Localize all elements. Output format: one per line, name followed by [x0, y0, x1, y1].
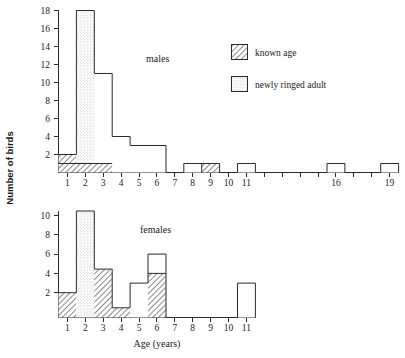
- panel-females: 10 8 6 4 2: [41, 211, 256, 351]
- males-ytick-2: 2: [45, 150, 50, 160]
- females-ytick-10: 10: [41, 211, 51, 221]
- figure-root: Number of birds 18 16 14 12 10: [0, 0, 405, 358]
- males-bar-9-known-age: [202, 164, 220, 173]
- females-ytick-8: 8: [45, 230, 50, 240]
- males-xtick-16: 16: [331, 178, 341, 188]
- males-xtick-5: 5: [137, 178, 142, 188]
- females-bar-11-unshaded: [238, 283, 256, 317]
- males-bar-2-known-age: [76, 164, 94, 173]
- males-xtick-4: 4: [119, 178, 124, 188]
- y-axis-label-text: Number of birds: [4, 131, 15, 204]
- females-xtick-6: 6: [155, 323, 160, 333]
- females-xtick-10: 10: [224, 323, 234, 333]
- females-bar-4-known-age: [112, 308, 130, 318]
- males-y-ticks: 18 16 14 12 10 8 6 4 2: [41, 6, 59, 160]
- males-xtick-9: 9: [208, 178, 213, 188]
- males-bar-6-unshaded: [148, 146, 166, 173]
- males-xtick-1: 1: [65, 178, 70, 188]
- males-bar-3-unshaded: [94, 74, 112, 164]
- males-x-ticks: 1 2 3 4 5 6 7 8 9 10 11 16 19: [65, 173, 395, 189]
- males-xtick-10: 10: [224, 178, 234, 188]
- females-ytick-2: 2: [45, 288, 50, 298]
- females-ytick-6: 6: [45, 249, 50, 259]
- males-bar-16-unshaded: [327, 164, 345, 173]
- females-xtick-2: 2: [83, 323, 88, 333]
- females-bar-2-newly-ringed: [76, 211, 94, 318]
- males-xtick-6: 6: [155, 178, 160, 188]
- males-xtick-19: 19: [385, 178, 395, 188]
- females-xtick-7: 7: [172, 323, 177, 333]
- bird-age-histogram-figure: Number of birds 18 16 14 12 10: [0, 0, 405, 358]
- males-ytick-6: 6: [45, 114, 50, 124]
- females-bar-5-unshaded: [130, 283, 148, 317]
- females-bar-6-unshaded: [148, 254, 166, 273]
- stippled-swatch: [232, 77, 248, 92]
- females-xtick-1: 1: [65, 323, 70, 333]
- females-xtick-11: 11: [242, 323, 251, 333]
- males-ytick-14: 14: [41, 42, 51, 52]
- legend: known age newly ringed adult: [232, 45, 327, 92]
- males-xtick-7: 7: [172, 178, 177, 188]
- males-xtick-8: 8: [190, 178, 195, 188]
- legend-label-known-age: known age: [255, 48, 296, 58]
- males-bar-5-unshaded: [130, 146, 148, 173]
- females-ytick-4: 4: [45, 269, 50, 279]
- hatched-swatch: [232, 45, 248, 60]
- males-ytick-10: 10: [41, 78, 51, 88]
- legend-item-known-age: known age: [232, 45, 297, 60]
- males-bar-11-unshaded: [238, 164, 256, 173]
- panel-males: 18 16 14 12 10 8 6 4 2: [41, 6, 399, 188]
- females-xtick-4: 4: [119, 323, 124, 333]
- males-ytick-4: 4: [45, 132, 50, 142]
- females-xtick-3: 3: [101, 323, 106, 333]
- panel-title-males: males: [146, 53, 169, 64]
- males-bars: [59, 11, 399, 173]
- males-xtick-3: 3: [101, 178, 106, 188]
- males-ytick-18: 18: [41, 6, 51, 16]
- panel-title-females: females: [140, 224, 171, 235]
- y-axis-label: Number of birds: [4, 131, 15, 204]
- males-bar-19-unshaded: [381, 164, 399, 173]
- males-bar-4-unshaded: [112, 137, 130, 173]
- females-xtick-9: 9: [208, 323, 213, 333]
- males-xtick-11: 11: [242, 178, 251, 188]
- x-axis-label-text: Age (years): [134, 338, 181, 350]
- males-bar-8-unshaded: [184, 164, 202, 173]
- females-bar-3-known-age: [94, 269, 112, 317]
- males-xtick-2: 2: [83, 178, 88, 188]
- females-bar-6-known-age: [148, 273, 166, 317]
- legend-item-newly-ringed-adult: newly ringed adult: [232, 77, 327, 92]
- females-y-ticks: 10 8 6 4 2: [41, 211, 59, 298]
- males-bar-3-known-age: [94, 164, 112, 173]
- females-xtick-8: 8: [190, 323, 195, 333]
- males-ytick-8: 8: [45, 96, 50, 106]
- females-x-ticks: 1 2 3 4 5 6 7 8 9 10 11: [65, 318, 251, 334]
- males-bar-2-newly-ringed: [76, 11, 94, 164]
- legend-label-newly-ringed-adult: newly ringed adult: [255, 80, 327, 90]
- males-ytick-16: 16: [41, 24, 51, 34]
- females-bar-1-known-age: [59, 293, 77, 318]
- males-ytick-12: 12: [41, 60, 51, 70]
- females-xtick-5: 5: [137, 323, 142, 333]
